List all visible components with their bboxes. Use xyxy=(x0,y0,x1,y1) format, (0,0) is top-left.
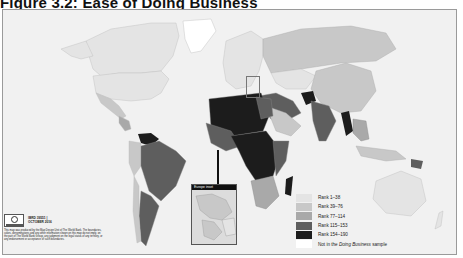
legend-item: Rank 154–190 xyxy=(296,230,387,239)
region-southeast-asia xyxy=(353,119,369,141)
europe-inset-locator xyxy=(246,76,260,98)
region-argentina xyxy=(139,191,159,246)
legend-label: Rank 77–114 xyxy=(318,214,345,219)
region-colombia-peru xyxy=(129,141,141,176)
region-canada xyxy=(86,23,179,76)
region-new-zealand xyxy=(435,211,443,229)
legend-swatch xyxy=(296,203,312,211)
legend-swatch xyxy=(296,212,312,220)
region-central-america xyxy=(119,116,131,131)
legend-label: Rank 39–76 xyxy=(318,204,343,209)
region-central-africa xyxy=(231,131,281,181)
legend-item-not-in-sample: Not in the Doing Business sample xyxy=(296,239,387,248)
region-southern-africa xyxy=(251,176,279,209)
region-myanmar xyxy=(341,111,353,136)
region-greenland xyxy=(183,19,216,53)
globe-icon xyxy=(11,216,18,223)
region-madagascar xyxy=(285,176,293,196)
legend-item: Rank 39–76 xyxy=(296,202,387,211)
map-legend: Rank 1–38 Rank 39–76 Rank 77–114 Rank 11… xyxy=(296,193,387,249)
region-indonesia xyxy=(356,146,406,161)
legend-swatch xyxy=(296,222,312,230)
legend-item: Rank 77–114 xyxy=(296,212,387,221)
region-brazil xyxy=(141,141,186,201)
map-disclaimer: This map was produced by the Map Design … xyxy=(4,229,104,241)
legend-label: Not in the Doing Business sample xyxy=(318,242,387,247)
legend-swatch xyxy=(296,194,312,202)
legend-swatch xyxy=(296,240,312,248)
legend-swatch xyxy=(296,231,312,239)
map-code: IBRD 39551 | OCTOBER 2016 xyxy=(28,217,52,224)
legend-item: Rank 115–153 xyxy=(296,221,387,230)
world-bank-logo xyxy=(4,214,24,227)
region-central-asia xyxy=(271,69,316,89)
legend-label: Rank 1–38 xyxy=(318,195,340,200)
region-png xyxy=(411,159,423,169)
region-east-africa xyxy=(273,141,289,176)
legend-label: Rank 154–190 xyxy=(318,232,348,237)
europe-inset-map xyxy=(192,190,237,245)
europe-inset: Europe inset xyxy=(191,184,237,245)
legend-label: Rank 115–153 xyxy=(318,223,348,228)
legend-item: Rank 1–38 xyxy=(296,193,387,202)
region-russia xyxy=(263,26,396,73)
